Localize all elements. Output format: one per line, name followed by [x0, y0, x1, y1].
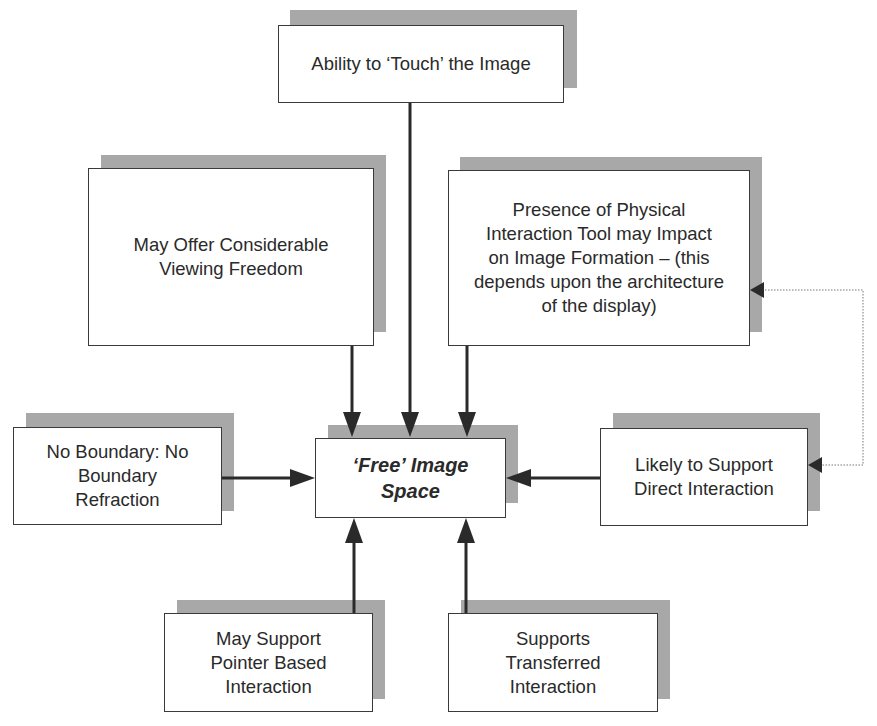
node-free-image-space-label: ‘Free’ Image Space [353, 452, 469, 504]
arrowhead-icon [808, 457, 822, 473]
node-physical-tool-label: Presence of Physical Interaction Tool ma… [474, 198, 724, 318]
edge-pointer-to-center [345, 518, 363, 613]
node-direct-interaction: Likely to Support Direct Interaction [600, 428, 808, 526]
node-pointer-interaction: May Support Pointer Based Interaction [164, 613, 373, 712]
node-transferred-interaction-label: Supports Transferred Interaction [506, 627, 601, 699]
arrowhead-icon [401, 412, 419, 437]
node-touch: Ability to ‘Touch’ the Image [278, 25, 564, 103]
node-free-image-space: ‘Free’ Image Space [315, 438, 506, 518]
edge-transferred-to-center [457, 518, 475, 613]
arrowhead-icon [506, 469, 531, 487]
edge-physical-tool-to-center [458, 345, 476, 437]
node-direct-interaction-label: Likely to Support Direct Interaction [634, 453, 774, 501]
node-pointer-interaction-label: May Support Pointer Based Interaction [210, 627, 326, 699]
arrowhead-icon [345, 518, 363, 543]
arrowhead-icon [457, 518, 475, 543]
node-no-boundary: No Boundary: No Boundary Refraction [13, 427, 222, 525]
connectors [0, 0, 877, 726]
edge-touch-to-center [401, 102, 419, 437]
node-physical-tool: Presence of Physical Interaction Tool ma… [448, 170, 750, 346]
edge-direct-to-center [506, 469, 600, 487]
node-transferred-interaction: Supports Transferred Interaction [448, 613, 658, 712]
edge-viewing-to-center [343, 345, 361, 437]
edge-no-boundary-to-center [221, 469, 315, 487]
arrowhead-icon [290, 469, 315, 487]
arrowhead-icon [750, 282, 764, 298]
arrowhead-icon [343, 412, 361, 437]
node-touch-label: Ability to ‘Touch’ the Image [311, 52, 530, 76]
node-viewing-freedom-label: May Offer Considerable Viewing Freedom [133, 233, 328, 281]
node-viewing-freedom: May Offer Considerable Viewing Freedom [88, 168, 374, 346]
arrowhead-icon [458, 412, 476, 437]
node-no-boundary-label: No Boundary: No Boundary Refraction [47, 440, 189, 512]
